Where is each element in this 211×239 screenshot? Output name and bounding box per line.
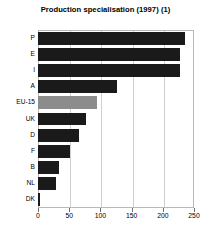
chart-container: Production specialisation (1997) (1) PEI… — [0, 0, 211, 239]
x-tick-label-250: 250 — [188, 213, 199, 220]
x-axis-tick-labels: 050100150200250 — [0, 213, 211, 227]
y-axis-label-b: B — [31, 164, 35, 171]
bar-dk[interactable] — [38, 193, 40, 206]
bar-i[interactable] — [38, 64, 180, 77]
x-tick-label-100: 100 — [95, 213, 106, 220]
bar-p[interactable] — [38, 32, 185, 45]
y-axis-label-d: D — [30, 132, 35, 139]
x-tick-label-0: 0 — [36, 213, 40, 220]
y-axis-label-a: A — [31, 83, 35, 90]
bar-eu-15[interactable] — [38, 96, 97, 109]
bar-row — [38, 129, 194, 142]
y-axis-label-e: E — [31, 51, 35, 58]
bar-row — [38, 32, 194, 45]
bar-nl[interactable] — [38, 177, 56, 190]
bar-uk[interactable] — [38, 113, 86, 126]
y-axis-label-dk: DK — [26, 196, 35, 203]
bar-row — [38, 96, 194, 109]
bar-row — [38, 113, 194, 126]
bar-row — [38, 145, 194, 158]
x-tick-label-150: 150 — [126, 213, 137, 220]
x-tick-label-200: 200 — [157, 213, 168, 220]
y-axis-label-uk: UK — [26, 116, 35, 123]
bar-row — [38, 177, 194, 190]
y-axis-label-eu-15: EU-15 — [16, 99, 35, 106]
y-axis-label-nl: NL — [27, 180, 35, 187]
y-axis-label-p: P — [31, 35, 35, 42]
bar-row — [38, 161, 194, 174]
bar-d[interactable] — [38, 129, 79, 142]
bar-e[interactable] — [38, 48, 180, 61]
bar-row — [38, 64, 194, 77]
y-axis-category-labels: PEIAEU-15UKDFBNLDK — [0, 30, 35, 208]
bar-f[interactable] — [38, 145, 70, 158]
bar-row — [38, 48, 194, 61]
bars-layer — [38, 30, 194, 208]
chart-title: Production specialisation (1997) (1) — [0, 5, 211, 14]
bar-row — [38, 193, 194, 206]
bar-a[interactable] — [38, 80, 117, 93]
x-tick-label-50: 50 — [65, 213, 73, 220]
y-axis-label-f: F — [31, 148, 35, 155]
bar-row — [38, 80, 194, 93]
bar-b[interactable] — [38, 161, 59, 174]
y-axis-label-i: I — [33, 67, 35, 74]
